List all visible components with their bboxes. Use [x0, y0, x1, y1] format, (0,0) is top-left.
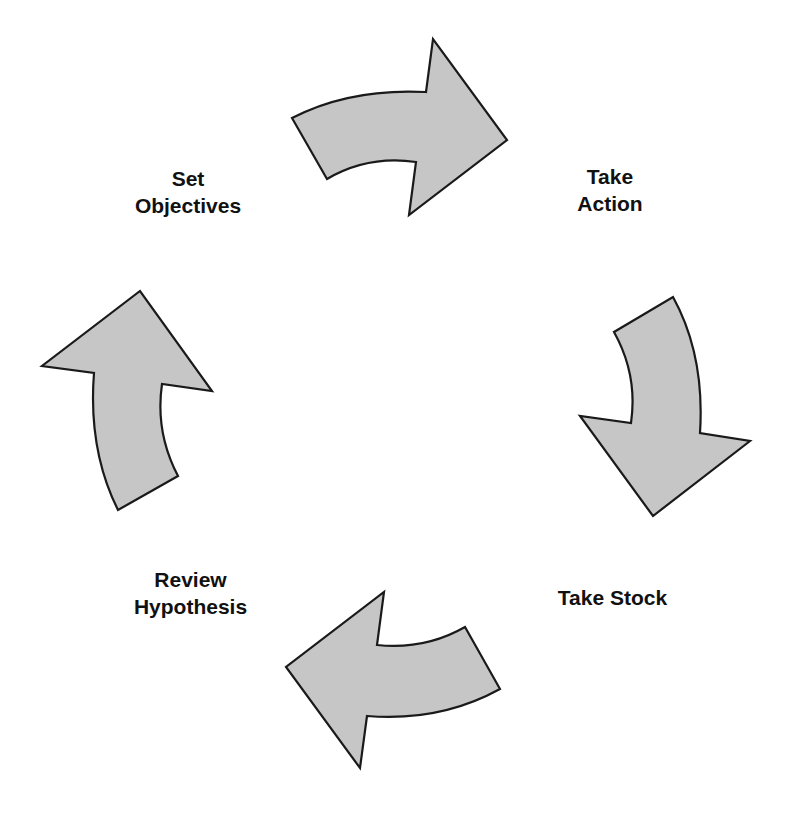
- step-label-line: Take: [555, 163, 665, 190]
- step-label-line: Action: [555, 190, 665, 217]
- step-label-line: Hypothesis: [118, 593, 263, 620]
- step-label-set-objectives: Set Objectives: [118, 165, 258, 219]
- step-label-review-hypothesis: Review Hypothesis: [118, 566, 263, 620]
- curved-arrow-left-icon: [286, 592, 500, 768]
- step-label-take-action: Take Action: [555, 163, 665, 217]
- arrows-layer: [0, 0, 793, 814]
- step-label-line: Set: [118, 165, 258, 192]
- step-label-line: Take Stock: [535, 584, 690, 611]
- step-label-line: Objectives: [118, 192, 258, 219]
- step-label-line: Review: [118, 566, 263, 593]
- step-label-take-stock: Take Stock: [535, 584, 690, 611]
- cycle-diagram: Set Objectives Take Action Take Stock Re…: [0, 0, 793, 814]
- curved-arrow-down-icon: [580, 297, 750, 516]
- curved-arrow-right-icon: [292, 39, 507, 215]
- curved-arrow-up-icon: [42, 291, 212, 510]
